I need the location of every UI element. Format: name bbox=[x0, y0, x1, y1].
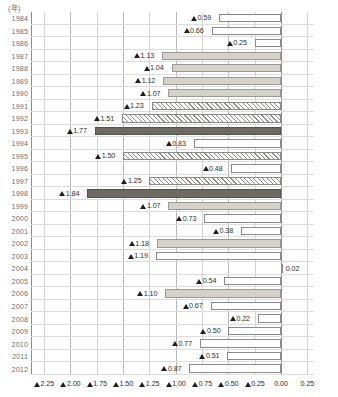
chart-row bbox=[31, 312, 314, 325]
negative-triangle-icon bbox=[199, 354, 205, 359]
chart-row bbox=[31, 262, 314, 275]
data-label-2011: 0.51 bbox=[199, 351, 219, 360]
bar-2005 bbox=[224, 277, 281, 285]
negative-triangle-icon bbox=[140, 91, 146, 96]
data-value-text: 1.23 bbox=[130, 101, 144, 110]
bar-2001 bbox=[241, 227, 281, 235]
negative-triangle-icon bbox=[172, 341, 178, 346]
negative-triangle-icon bbox=[140, 204, 146, 209]
bar-2007 bbox=[211, 302, 282, 310]
year-label-1987: 1987 bbox=[0, 52, 28, 61]
data-label-2002: 1.18 bbox=[129, 239, 149, 248]
chart-row bbox=[31, 200, 314, 213]
negative-triangle-icon bbox=[161, 366, 167, 371]
negative-triangle-icon bbox=[95, 154, 101, 159]
x-tick-text: 2.00 bbox=[67, 379, 81, 388]
year-label-2008: 2008 bbox=[0, 315, 28, 324]
negative-triangle-icon bbox=[137, 291, 143, 296]
data-label-1984: 0.59 bbox=[191, 13, 211, 22]
data-label-2006: 1.10 bbox=[137, 289, 157, 298]
x-tick-text: 0.00 bbox=[274, 379, 288, 388]
year-label-1992: 1992 bbox=[0, 114, 28, 123]
x-tick-▲0.75: 0.75 bbox=[192, 379, 212, 388]
data-label-1993: 1.77 bbox=[67, 126, 87, 135]
data-label-2001: 0.38 bbox=[213, 226, 233, 235]
year-label-2005: 2005 bbox=[0, 277, 28, 286]
year-label-1998: 1998 bbox=[0, 189, 28, 198]
x-tick-▲2.00: 2.00 bbox=[60, 379, 80, 388]
bar-1995 bbox=[123, 152, 281, 160]
negative-triangle-icon bbox=[176, 216, 182, 221]
year-label-2011: 2011 bbox=[0, 352, 28, 361]
bar-2009 bbox=[228, 327, 281, 335]
data-value-text: 0.67 bbox=[189, 301, 203, 310]
bar-2010 bbox=[200, 339, 281, 347]
negative-triangle-icon bbox=[166, 141, 172, 146]
data-value-text: 0.38 bbox=[220, 226, 234, 235]
bar-2003 bbox=[156, 252, 281, 260]
year-label-1991: 1991 bbox=[0, 102, 28, 111]
data-label-2007: 0.67 bbox=[183, 301, 203, 310]
x-tick-▲1.50: 1.50 bbox=[113, 379, 133, 388]
negative-triangle-icon bbox=[59, 191, 65, 196]
data-label-1989: 1.12 bbox=[135, 76, 155, 85]
negative-triangle-icon bbox=[128, 254, 134, 259]
chart-row bbox=[31, 250, 314, 263]
bar-2011 bbox=[227, 352, 281, 360]
year-label-1997: 1997 bbox=[0, 177, 28, 186]
data-value-text: 1.18 bbox=[135, 239, 149, 248]
data-label-1995: 1.50 bbox=[95, 151, 115, 160]
bar-1984 bbox=[219, 14, 281, 22]
x-tick-0.25: 0.25 bbox=[301, 379, 315, 388]
data-value-text: 0.54 bbox=[203, 276, 217, 285]
data-label-1994: 0.83 bbox=[166, 139, 186, 148]
data-value-text: 0.73 bbox=[183, 214, 197, 223]
data-label-1998: 1.84 bbox=[59, 189, 79, 198]
year-label-1999: 1999 bbox=[0, 202, 28, 211]
data-value-text: 1.51 bbox=[101, 114, 115, 123]
x-tick-▲0.25: 0.25 bbox=[245, 379, 265, 388]
data-value-text: 1.12 bbox=[142, 76, 156, 85]
bar-2004 bbox=[281, 264, 283, 272]
bar-1987 bbox=[162, 52, 281, 60]
year-label-1995: 1995 bbox=[0, 152, 28, 161]
bar-1986 bbox=[255, 39, 281, 47]
x-tick-text: 0.50 bbox=[225, 379, 239, 388]
year-label-1984: 1984 bbox=[0, 14, 28, 23]
chart-row bbox=[31, 325, 314, 338]
x-tick-text: 1.75 bbox=[93, 379, 107, 388]
x-tick-text: 2.25 bbox=[41, 379, 55, 388]
x-tick-text: 1.00 bbox=[172, 379, 186, 388]
data-value-text: 1.07 bbox=[147, 89, 161, 98]
data-value-text: 0.48 bbox=[209, 164, 223, 173]
data-value-text: 1.10 bbox=[144, 289, 158, 298]
data-value-text: 1.84 bbox=[66, 189, 80, 198]
year-label-1996: 1996 bbox=[0, 164, 28, 173]
chart-row bbox=[31, 112, 314, 125]
chart-row bbox=[31, 275, 314, 288]
year-label-2012: 2012 bbox=[0, 365, 28, 374]
year-label-1994: 1994 bbox=[0, 139, 28, 148]
chart-row bbox=[31, 287, 314, 300]
data-value-text: 1.04 bbox=[150, 63, 164, 72]
negative-triangle-icon bbox=[67, 129, 73, 134]
data-label-1987: 1.13 bbox=[134, 51, 154, 60]
data-value-text: 0.59 bbox=[197, 13, 211, 22]
bar-1988 bbox=[172, 64, 282, 72]
negative-triangle-icon bbox=[129, 241, 135, 246]
year-label-2010: 2010 bbox=[0, 340, 28, 349]
bar-2012 bbox=[189, 364, 281, 372]
data-value-text: 1.07 bbox=[147, 201, 161, 210]
bar-1996 bbox=[231, 164, 282, 172]
bar-2000 bbox=[204, 214, 281, 222]
year-label-2007: 2007 bbox=[0, 302, 28, 311]
data-value-text: 0.50 bbox=[207, 326, 221, 335]
data-label-2012: 0.87 bbox=[161, 364, 181, 373]
chart-row bbox=[31, 12, 314, 25]
year-label-2000: 2000 bbox=[0, 214, 28, 223]
negative-triangle-icon bbox=[134, 53, 140, 58]
year-label-2004: 2004 bbox=[0, 264, 28, 273]
data-label-1988: 1.04 bbox=[144, 63, 164, 72]
bar-2008 bbox=[258, 314, 281, 322]
data-value-text: 1.77 bbox=[73, 126, 87, 135]
